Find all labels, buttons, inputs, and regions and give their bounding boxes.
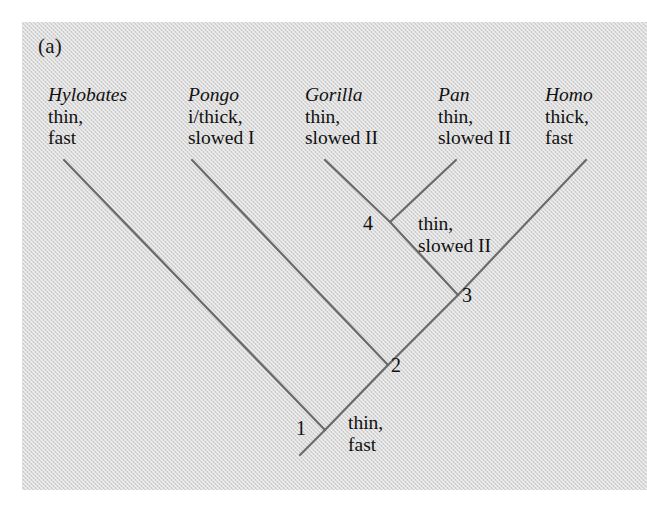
taxon-label-hylobates: Hylobatesthin,fast bbox=[48, 84, 127, 149]
taxon-label-pongo: Pongoi/thick,slowed I bbox=[188, 84, 255, 149]
branch-annotation-line2: fast bbox=[348, 434, 383, 456]
taxon-name: Hylobates bbox=[48, 84, 127, 106]
taxon-trait-line2: fast bbox=[545, 127, 593, 149]
node-number-4: 4 bbox=[363, 213, 373, 233]
taxon-label-homo: Homothick,fast bbox=[545, 84, 593, 149]
taxon-trait-line2: slowed II bbox=[305, 127, 378, 149]
branch-annotation-line1: thin, bbox=[418, 213, 491, 235]
taxon-name: Homo bbox=[545, 84, 593, 106]
taxon-trait-line1: thin, bbox=[48, 106, 127, 128]
branch-annotation-1: thin,slowed II bbox=[418, 213, 491, 256]
node-number-2: 2 bbox=[391, 355, 401, 375]
node-number-1: 1 bbox=[296, 418, 306, 438]
node-number-3: 3 bbox=[462, 285, 472, 305]
taxon-trait-line1: thick, bbox=[545, 106, 593, 128]
branch-annotation-line1: thin, bbox=[348, 412, 383, 434]
branch-annotation-2: thin,fast bbox=[348, 412, 383, 455]
figure-page: (a) Hylobatesthin,fastPongoi/thick,slowe… bbox=[0, 0, 647, 518]
branch-Hylobates-tip-to-node-1 bbox=[64, 160, 325, 430]
taxon-trait-line2: fast bbox=[48, 127, 127, 149]
taxon-name: Gorilla bbox=[305, 84, 378, 106]
taxon-trait-line1: thin, bbox=[305, 106, 378, 128]
taxon-label-gorilla: Gorillathin,slowed II bbox=[305, 84, 378, 149]
taxon-trait-line2: slowed II bbox=[438, 127, 511, 149]
taxon-trait-line1: thin, bbox=[438, 106, 511, 128]
branch-Gorilla-tip-to-node-4 bbox=[325, 160, 390, 222]
taxon-trait-line1: i/thick, bbox=[188, 106, 255, 128]
taxon-name: Pan bbox=[438, 84, 511, 106]
taxon-name: Pongo bbox=[188, 84, 255, 106]
taxon-label-pan: Panthin,slowed II bbox=[438, 84, 511, 149]
cladogram-branches bbox=[0, 0, 647, 518]
branch-annotation-line2: slowed II bbox=[418, 235, 491, 257]
taxon-trait-line2: slowed I bbox=[188, 127, 255, 149]
